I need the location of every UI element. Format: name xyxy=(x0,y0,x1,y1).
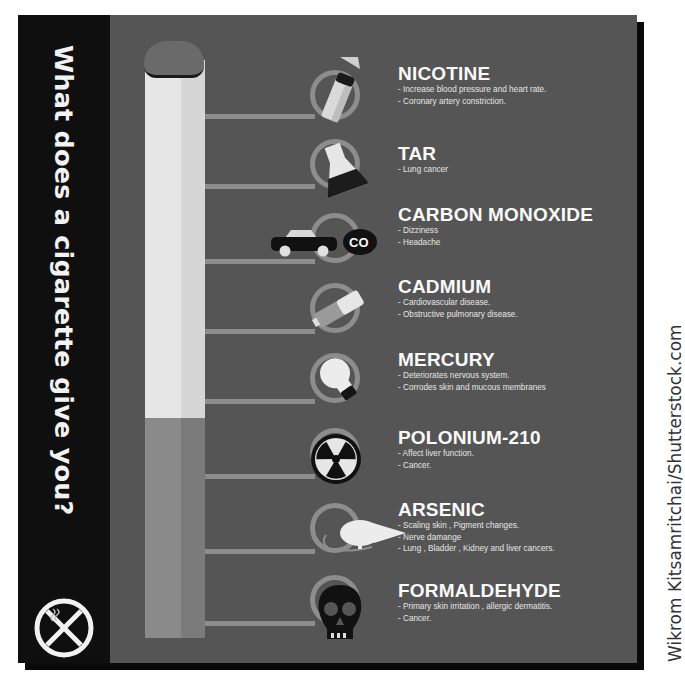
substance-name: MERCURY xyxy=(398,350,546,370)
infographic-frame: What does a cigarette give you? xyxy=(18,15,637,663)
effect-text: - Primary skin irritation , allergic der… xyxy=(398,601,561,613)
connector-line xyxy=(205,399,315,404)
image-credit: Wikrom Kitsamritchai/Shutterstock.com xyxy=(665,324,685,662)
substance-mercury: MERCURY - Deteriorates nervous system. -… xyxy=(398,350,546,393)
effect-text: - Cardiovascular disease. xyxy=(398,297,518,309)
cigarette-filter xyxy=(145,418,205,638)
effect-text: - Cancer. xyxy=(398,613,561,625)
effect-text: - Corrodes skin and mucous membranes xyxy=(398,382,546,394)
cigarette-body xyxy=(145,60,205,418)
effect-text: - Headache xyxy=(398,237,593,249)
co-label: CO xyxy=(349,235,369,250)
title-sidebar: What does a cigarette give you? xyxy=(18,15,110,663)
light-bulb-icon xyxy=(316,353,366,408)
substance-name: ARSENIC xyxy=(398,500,555,520)
connector-line xyxy=(205,184,315,189)
substance-arsenic: ARSENIC - Scaling skin , Pigment changes… xyxy=(398,500,555,555)
effect-text: - Coronary artery constriction. xyxy=(398,96,546,108)
substance-name: NICOTINE xyxy=(398,64,546,84)
connector-line xyxy=(205,621,315,626)
effect-text: - Cancer. xyxy=(398,460,541,472)
rat-icon xyxy=(318,513,408,553)
effect-text: - Deteriorates nervous system. xyxy=(398,370,546,382)
no-smoking-icon xyxy=(33,597,95,659)
substance-formaldehyde: FORMALDEHYDE - Primary skin irritation ,… xyxy=(398,581,561,624)
connector-line xyxy=(205,114,315,119)
substance-name: CADMIUM xyxy=(398,277,518,297)
connector-line xyxy=(205,329,315,334)
infographic-title: What does a cigarette give you? xyxy=(49,45,79,516)
car-exhaust-co-icon: CO xyxy=(263,220,378,260)
effect-text: - Affect liver function. xyxy=(398,448,541,460)
effect-text: - Lung cancer xyxy=(398,164,448,176)
effect-text: - Increase blood pressure and heart rate… xyxy=(398,84,546,96)
substance-name: TAR xyxy=(398,144,448,164)
radiation-icon xyxy=(309,432,363,486)
substance-carbon-monoxide: CARBON MONOXIDE - Dizziness - Headache xyxy=(398,205,593,248)
effect-text: - Dizziness xyxy=(398,225,593,237)
cigarette-pack-spray-icon xyxy=(308,55,368,130)
battery-icon xyxy=(310,285,368,333)
substance-tar: TAR - Lung cancer xyxy=(398,144,448,176)
substance-nicotine: NICOTINE - Increase blood pressure and h… xyxy=(398,64,546,107)
substance-name: CARBON MONOXIDE xyxy=(398,205,593,225)
substance-name: POLONIUM-210 xyxy=(398,428,541,448)
substance-cadmium: CADMIUM - Cardiovascular disease. - Obst… xyxy=(398,277,518,320)
cigarette-ash-tip xyxy=(144,41,204,78)
effect-text: - Obstructive pulmonary disease. xyxy=(398,309,518,321)
effect-text: - Scaling skin , Pigment changes. xyxy=(398,520,555,532)
effect-text: - Nerve damange xyxy=(398,532,555,544)
connector-line xyxy=(205,549,315,554)
effect-text: - Lung , Bladder , Kidney and liver canc… xyxy=(398,543,555,555)
flask-icon xyxy=(313,140,368,198)
skull-icon xyxy=(315,583,365,641)
substance-name: FORMALDEHYDE xyxy=(398,581,561,601)
substance-polonium-210: POLONIUM-210 - Affect liver function. - … xyxy=(398,428,541,471)
connector-line xyxy=(205,474,315,479)
